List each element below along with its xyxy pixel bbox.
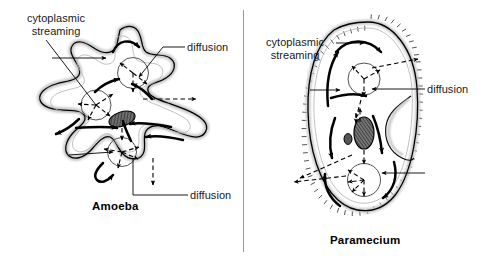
leader-amoeba-diffusion-bottom [133,158,188,195]
label-amoeba-diffusion-top: diffusion [187,41,228,54]
paramecium-macronucleus [354,117,374,149]
amoeba-diagram [40,26,207,195]
caption-amoeba: Amoeba [92,200,139,212]
paramecium-micronucleus [344,134,352,145]
label-paramecium-cytoplasmic-streaming: cytoplasmic streaming [253,36,337,61]
caption-paramecium: Paramecium [330,234,400,246]
label-amoeba-cytoplasmic-streaming: cytoplasmic streaming [14,12,98,37]
label-paramecium-diffusion: diffusion [427,83,468,96]
figure-canvas [0,0,489,262]
biology-figure: cytoplasmic streaming diffusion diffusio… [0,0,489,262]
label-amoeba-diffusion-bottom: diffusion [190,189,231,202]
